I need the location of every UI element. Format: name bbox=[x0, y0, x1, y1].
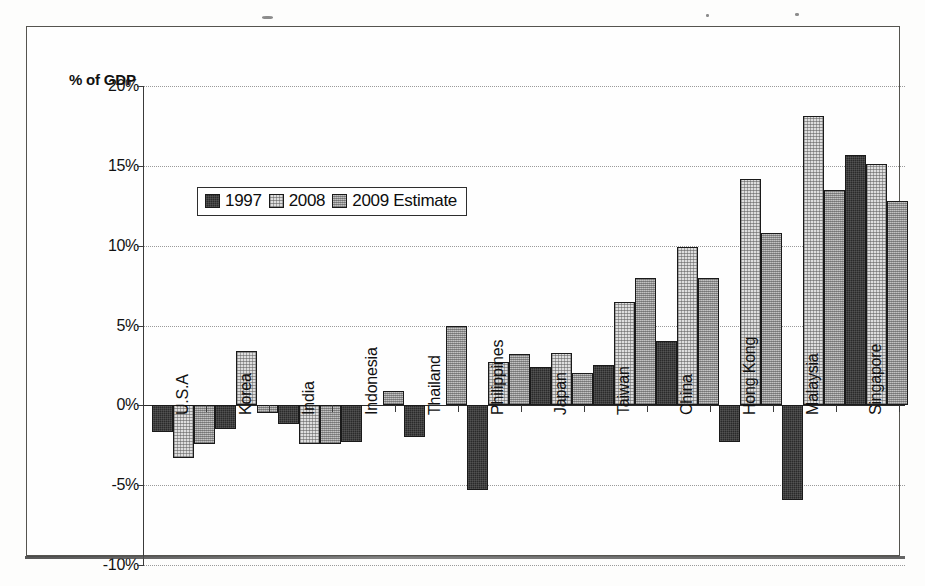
y-axis-tick bbox=[137, 565, 144, 566]
bar bbox=[698, 278, 719, 406]
y-axis-label: 20% bbox=[108, 77, 139, 95]
bar bbox=[404, 405, 425, 437]
scanned-page: % of GDP 20%15%10%5%0%-5%-10% U.S.AKorea… bbox=[0, 0, 925, 586]
x-axis-tick bbox=[899, 405, 900, 412]
x-axis-category-label: Korea bbox=[237, 374, 255, 416]
bar-group bbox=[278, 86, 341, 565]
y-axis-label: -5% bbox=[111, 476, 139, 494]
bar-group bbox=[404, 86, 467, 565]
y-axis-label: 10% bbox=[108, 237, 139, 255]
bar bbox=[782, 405, 803, 499]
bar bbox=[446, 326, 467, 406]
bar bbox=[341, 405, 362, 442]
bar-group bbox=[845, 86, 908, 565]
x-axis-tick bbox=[395, 405, 396, 412]
legend-item: 2008 bbox=[269, 191, 326, 211]
x-axis-category-label: U.S.A bbox=[174, 375, 192, 416]
x-axis-tick bbox=[143, 405, 144, 412]
x-axis-category-label: Singapore bbox=[867, 344, 885, 415]
x-axis-category-label: Taiwan bbox=[615, 367, 633, 416]
legend-item: 1997 bbox=[205, 191, 262, 211]
chart-legend: 199720082009 Estimate bbox=[197, 187, 467, 216]
scan-artifact bbox=[795, 13, 799, 16]
bar bbox=[572, 373, 593, 405]
bar-group bbox=[152, 86, 215, 565]
bar-group bbox=[782, 86, 845, 565]
x-axis-tick bbox=[332, 405, 333, 412]
bar-group bbox=[593, 86, 656, 565]
x-axis-tick bbox=[206, 405, 207, 412]
bar bbox=[257, 405, 278, 413]
x-axis-tick bbox=[710, 405, 711, 412]
scan-artifact bbox=[706, 14, 709, 17]
gridline bbox=[143, 565, 905, 566]
bar bbox=[845, 155, 866, 406]
bar bbox=[383, 391, 404, 405]
bar-group bbox=[341, 86, 404, 565]
y-axis-tick bbox=[137, 166, 144, 167]
x-axis-category-label: Japan bbox=[552, 373, 570, 416]
legend-swatch bbox=[332, 194, 347, 208]
bar bbox=[509, 354, 530, 405]
bar bbox=[887, 201, 908, 405]
legend-swatch bbox=[269, 194, 284, 208]
x-axis-category-label: China bbox=[678, 375, 696, 416]
y-axis-tick bbox=[137, 326, 144, 327]
bar bbox=[824, 190, 845, 406]
bar bbox=[152, 405, 173, 432]
y-axis-label: 0% bbox=[116, 396, 139, 414]
bar bbox=[215, 405, 236, 429]
bar bbox=[467, 405, 488, 490]
x-axis-tick bbox=[269, 405, 270, 412]
y-axis-labels: 20%15%10%5%0%-5%-10% bbox=[77, 86, 139, 565]
x-axis-category-label: India bbox=[300, 382, 318, 416]
y-axis-label: 15% bbox=[108, 157, 139, 175]
x-axis-category-label: Indonesia bbox=[363, 348, 381, 416]
legend-swatch bbox=[205, 194, 220, 208]
x-axis-category-label: Hong Kong bbox=[741, 337, 759, 415]
bar bbox=[593, 365, 614, 405]
bar-group bbox=[530, 86, 593, 565]
y-axis-tick bbox=[137, 485, 144, 486]
bar bbox=[194, 405, 215, 443]
bar-group bbox=[719, 86, 782, 565]
bar bbox=[635, 278, 656, 406]
x-axis-tick bbox=[458, 405, 459, 412]
x-axis-tick bbox=[836, 405, 837, 412]
bar-group bbox=[656, 86, 719, 565]
bar-group bbox=[215, 86, 278, 565]
x-axis-tick bbox=[647, 405, 648, 412]
y-axis-tick bbox=[137, 86, 144, 87]
y-axis-tick bbox=[137, 246, 144, 247]
bar bbox=[656, 341, 677, 405]
y-axis-label: 5% bbox=[116, 317, 139, 335]
bar bbox=[761, 233, 782, 405]
legend-label: 2009 Estimate bbox=[352, 191, 457, 211]
bar bbox=[320, 405, 341, 443]
bar bbox=[278, 405, 299, 424]
x-axis-tick bbox=[584, 405, 585, 412]
legend-item: 2009 Estimate bbox=[332, 191, 457, 211]
x-axis-category-label: Philippines bbox=[489, 340, 507, 415]
legend-label: 2008 bbox=[289, 191, 326, 211]
x-axis-tick bbox=[521, 405, 522, 412]
bar bbox=[530, 367, 551, 405]
plot-area: U.S.AKoreaIndiaIndonesiaThailandPhilippi… bbox=[143, 86, 905, 565]
x-axis-tick bbox=[773, 405, 774, 412]
legend-label: 1997 bbox=[225, 191, 262, 211]
x-axis-category-label: Thailand bbox=[426, 356, 444, 416]
bar bbox=[719, 405, 740, 442]
y-axis-label: -10% bbox=[103, 556, 139, 574]
x-axis-category-label: Malaysia bbox=[804, 354, 822, 416]
chart-frame: % of GDP 20%15%10%5%0%-5%-10% U.S.AKorea… bbox=[26, 26, 900, 556]
scan-artifact bbox=[262, 16, 273, 19]
bar-group bbox=[467, 86, 530, 565]
